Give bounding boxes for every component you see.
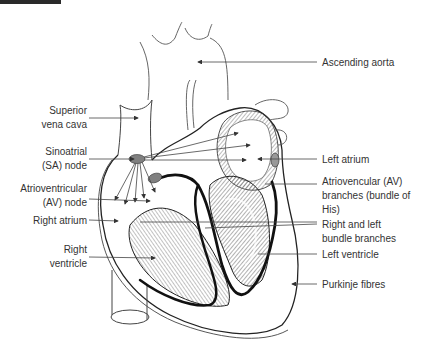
label-line: ventricle — [50, 257, 87, 271]
label-line: Sinoatrial — [42, 145, 87, 159]
label-left-ventricle: Left ventricle — [322, 248, 379, 262]
label-right-ventricle: Right ventricle — [50, 243, 87, 271]
label-line: Right — [50, 243, 87, 257]
label-line: Ascending aorta — [322, 56, 394, 70]
label-line: (SA) node — [42, 159, 87, 173]
label-left-atrium: Left atrium — [322, 153, 369, 167]
label-av-branches: Atriovencular (AV) branches (bundle of H… — [322, 175, 410, 217]
label-line: Atriovencular (AV) — [322, 175, 410, 189]
label-line: Superior — [41, 104, 87, 118]
label-line: Purkinje fibres — [322, 278, 385, 292]
label-line: bundle branches — [322, 232, 396, 246]
label-bundle-branches: Right and left bundle branches — [322, 218, 396, 246]
pulmonary-trunk — [186, 80, 190, 130]
label-line: Left ventricle — [322, 248, 379, 262]
label-line: His) — [322, 203, 410, 217]
label-purkinje-fibres: Purkinje fibres — [322, 278, 385, 292]
label-line: vena cava — [41, 118, 87, 132]
label-atrioventricular-node: Atrioventricular (AV) node — [20, 182, 87, 210]
aortic-arch — [140, 22, 228, 100]
label-right-atrium: Right atrium — [33, 214, 87, 228]
label-superior-vena-cava: Superior vena cava — [41, 104, 87, 132]
label-line: Right and left — [322, 218, 396, 232]
superior-vena-cava-shape — [118, 100, 152, 160]
label-ascending-aorta: Ascending aorta — [322, 56, 394, 70]
label-line: Atrioventricular — [20, 182, 87, 196]
label-line: Left atrium — [322, 153, 369, 167]
label-line: (AV) node — [20, 196, 87, 210]
label-sinoatrial-node: Sinoatrial (SA) node — [42, 145, 87, 173]
label-line: Right atrium — [33, 214, 87, 228]
label-line: branches (bundle of — [322, 189, 410, 203]
